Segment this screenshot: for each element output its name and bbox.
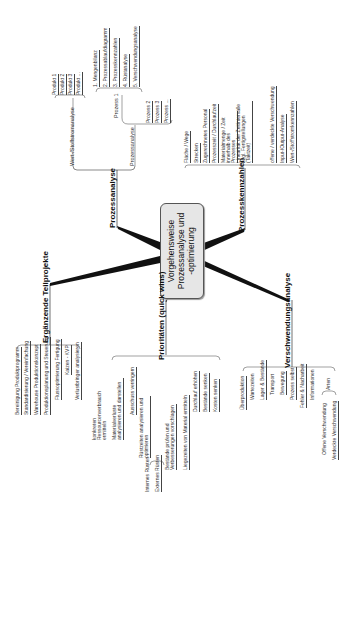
leaf-produkt-1[interactable]: Produkt 1 [52,74,59,95]
leaf-step-prozesskennzahlen[interactable]: 3. Prozesskennzahlen [113,38,120,87]
leaf-materialverluste[interactable]: Materialverluste analysieren und darstel… [112,378,124,440]
leaf-verlustbringer[interactable]: Verlustbringer analysieren [75,342,82,400]
leaf-prozess-more[interactable]: Prozess ... [164,99,171,123]
leaf-strecken[interactable]: Strecken [194,143,201,163]
leaf-prozess-2[interactable]: Prozess 2 [146,101,153,123]
branch-ergaenzende-teilprojekte[interactable]: Ergänzende Teilprojekte [42,251,50,343]
leaf-prozess-3[interactable]: Prozess 3 [155,101,162,123]
leaf-ruestzeiten[interactable]: Rüstzeiten analysieren und optimieren [139,396,151,458]
leaf-lager-bestaende[interactable]: Lager & Bestände [260,360,267,400]
leaf-externes-ruesten[interactable]: Externes Rüsten [155,455,162,492]
leaf-flussoptimierung[interactable]: Flussoptimierung Fertigung [55,339,62,400]
node-prozess-1[interactable]: Prozess 1 [114,94,120,118]
leaf-wartezeiten[interactable]: Wartezeiten [250,374,256,401]
leaf-wert-stoffstromkennzahlen[interactable]: Wert-/Stoffstromkennzahlen [290,101,297,163]
leaf-arten[interactable]: Arten [326,378,332,390]
leaf-ueberproduktion[interactable]: Überproduktion [240,376,247,410]
central-topic-node[interactable]: Vorgehensweise Prozessanalyse und -optim… [160,203,204,299]
leaf-bestaende-pruefen[interactable]: Bestände prüfen und Verbesserungen vorsc… [165,404,177,470]
leaf-linearitaet-zeitintervalle[interactable]: Linearität der Zeitintervalle bzgl. Fert… [236,101,253,163]
leaf-verdeckte-verschwendung[interactable]: Verdeckte Verschwendung [332,401,339,460]
leaf-offene-verschwendung[interactable]: Offene Verschwendung [322,403,328,455]
leaf-bestaende-senken[interactable]: Bestände senken [203,373,210,412]
leaf-durchlauf-erhoehen[interactable]: Durchlauf erhöhen [193,371,200,412]
branch-prozesskennzahlen[interactable]: Prozesskennzahlen [238,158,246,232]
leaf-informationen[interactable]: Informationen [310,369,316,400]
leaf-liegezeiten[interactable]: Liegezeiten von Material ermitteln [183,395,190,470]
leaf-transport[interactable]: Transport [270,374,276,395]
central-topic-text: Vorgehensweise Prozessanalyse und -optim… [167,205,196,297]
leaf-step-mengenbilanz[interactable]: 1. Mengenbilanz [93,50,100,87]
leaf-kosten-senken[interactable]: Kosten senken [213,379,220,412]
branch-verschwendungsanalyse[interactable]: Verschwendungsanalyse [284,273,292,368]
central-line-3: -optimierung [187,205,197,297]
leaf-prozess-selbst[interactable]: Prozess selbst [290,367,297,400]
leaf-offene-verdeckte-verschwendung[interactable]: offene / verdeckte Verschwendung [270,86,277,163]
node-prozessanalyse-sub[interactable]: Prozessanalyse [130,127,136,166]
leaf-step-verschwendungsanalyse[interactable]: 5. Verschwendungsanalyse [133,26,140,87]
branch-prioritaeten-quick-wins[interactable]: Prioritäten (quick wins) [158,272,166,360]
leaf-input-output-analyse[interactable]: Input-/Output-Analyse [280,114,287,163]
leaf-produkt-more[interactable]: Produkt ... [76,72,83,95]
leaf-step-ruestanalyse[interactable]: 4. Rüstanalyse [123,54,130,87]
leaf-fehler-nacharbeit[interactable]: Fehler & Nacharbeit [300,364,307,408]
leaf-warehouse-produktionskonzept[interactable]: Warehouse Produktionskonzept [34,344,41,415]
leaf-zugerechnetes-personal[interactable]: Zugerechnetes Personal [203,109,210,163]
leaf-ressourcenverbrauch[interactable]: konkreten Ressourcenverbrauch ermitteln [92,378,108,440]
leaf-internes-ruesten[interactable]: Internes Rüsten [145,457,151,492]
leaf-produktionsplanung-steuerung[interactable]: Produktionsplanung und Steuerung [44,337,51,415]
leaf-produkt-2[interactable]: Produkt 2 [60,74,67,95]
leaf-flaeche-wege[interactable]: Fläche / Wege [184,131,191,163]
branch-prozessanalyse[interactable]: Prozessanalyse [109,168,117,228]
leaf-bewegung[interactable]: Bewegung [280,371,287,395]
node-wert-stoffstromanalyse[interactable]: Wert-/Stoffstromanalyse [70,107,76,166]
leaf-step-prozessablaufdiagramm[interactable]: 2. Prozessablaufdiagramm [103,28,110,87]
leaf-prozesszeit[interactable]: Prozesszeit / Durchlaufzeit [212,104,219,163]
leaf-bereinigung-produktprogramm[interactable]: Bereinigung Produktprogramm [15,347,22,415]
leaf-produkt-3[interactable]: Produkt 3 [68,74,75,95]
leaf-kaizen-kvp[interactable]: Kaizen - KVP [65,345,72,375]
leaf-standardisierung[interactable]: Standardisierung / Vereinfachung [24,341,31,415]
leaf-ausschuss-verringern[interactable]: Ausschuss verringern [130,367,137,415]
